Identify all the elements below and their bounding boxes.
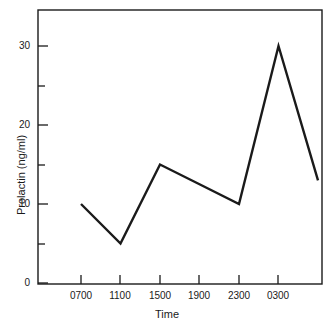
x-tick-label-0300: 0300 — [254, 291, 302, 301]
y-tick-label-30: 30 — [6, 41, 30, 51]
y-axis-title: Prolactin (ng/ml) — [16, 135, 27, 215]
y-tick-label-20: 20 — [6, 120, 30, 130]
prolactin-time-line-chart: 30 20 10 0 0700 1100 1500 1900 2300 0300… — [0, 0, 334, 329]
x-axis-title: Time — [0, 309, 334, 320]
plot-canvas — [0, 0, 334, 329]
y-tick-label-0: 0 — [6, 278, 30, 288]
